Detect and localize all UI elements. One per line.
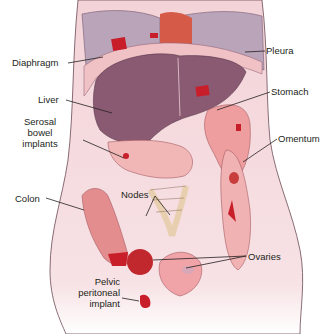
label-serosal-line2: bowel <box>14 127 66 138</box>
liver-implant <box>195 85 209 97</box>
label-liver: Liver <box>38 94 59 105</box>
label-serosal-line3: implants <box>14 138 66 149</box>
label-pelvic-line2: peritoneal <box>50 287 120 298</box>
label-serosal-line1: Serosal <box>14 116 66 127</box>
label-colon: Colon <box>15 193 40 204</box>
label-pelvic-line1: Pelvic <box>50 276 120 287</box>
label-pelvic: Pelvic peritoneal implant <box>50 276 120 309</box>
label-pelvic-line3: implant <box>50 298 120 309</box>
label-stomach: Stomach <box>271 86 309 97</box>
ovarian-tumor <box>127 249 153 275</box>
heart <box>160 12 192 47</box>
label-diaphragm: Diaphragm <box>12 57 58 68</box>
label-ovaries: Ovaries <box>248 251 281 262</box>
label-pleura: Pleura <box>266 45 293 56</box>
diaphragm-implant <box>111 37 127 51</box>
label-omentum: Omentum <box>278 133 320 144</box>
label-nodes: Nodes <box>121 189 148 200</box>
label-serosal: Serosal bowel implants <box>14 116 66 149</box>
